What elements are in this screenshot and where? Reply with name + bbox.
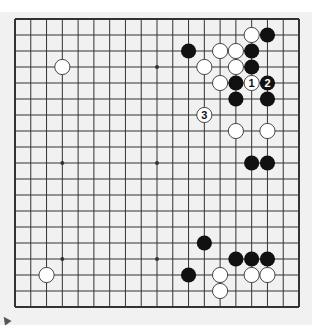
black-stone bbox=[197, 235, 212, 250]
white-stone bbox=[244, 27, 259, 42]
black-stone bbox=[260, 27, 275, 42]
move-number-label: 1 bbox=[249, 77, 255, 89]
white-stone bbox=[244, 267, 259, 282]
star-point bbox=[60, 257, 64, 261]
black-stone bbox=[228, 75, 243, 90]
white-stone bbox=[55, 59, 70, 74]
white-stone bbox=[228, 123, 243, 138]
black-stone bbox=[181, 43, 196, 58]
white-stone bbox=[213, 43, 228, 58]
move-number-label: 2 bbox=[264, 77, 270, 89]
white-stone bbox=[39, 267, 54, 282]
white-stone bbox=[213, 267, 228, 282]
star-point bbox=[60, 161, 64, 165]
white-stone bbox=[197, 59, 212, 74]
black-stone bbox=[260, 155, 275, 170]
white-stone bbox=[260, 123, 275, 138]
black-stone bbox=[244, 59, 259, 74]
black-stone: 2 bbox=[260, 75, 275, 90]
star-point bbox=[155, 65, 159, 69]
white-stone bbox=[213, 75, 228, 90]
black-stone bbox=[244, 155, 259, 170]
move-number-label: 3 bbox=[201, 109, 207, 121]
white-stone bbox=[213, 283, 228, 298]
white-stone bbox=[228, 59, 243, 74]
white-stone: 3 bbox=[197, 107, 212, 122]
white-stone: 1 bbox=[244, 75, 259, 90]
white-stone bbox=[260, 267, 275, 282]
black-stone bbox=[244, 251, 259, 266]
black-stone bbox=[181, 267, 196, 282]
star-point bbox=[155, 161, 159, 165]
white-stone bbox=[228, 43, 243, 58]
black-stone bbox=[228, 91, 243, 106]
black-stone bbox=[260, 91, 275, 106]
black-stone bbox=[244, 43, 259, 58]
black-stone bbox=[228, 251, 243, 266]
black-stone bbox=[260, 251, 275, 266]
star-point bbox=[155, 257, 159, 261]
